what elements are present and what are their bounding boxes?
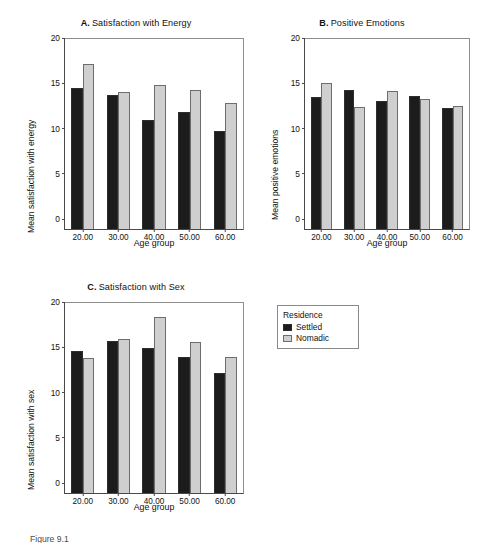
bar-b-nomadic-20.00 — [321, 83, 332, 229]
panel-b: B.Positive Emotions Mean positive emotio… — [262, 18, 480, 268]
legend-label-settled: Settled — [296, 322, 322, 332]
y-tick-label: 15 — [51, 78, 62, 88]
bar-b-nomadic-60.00 — [453, 106, 464, 229]
panel-c-y-axis-label: Mean satisfaction with sex — [26, 390, 36, 490]
y-tick-mark — [62, 437, 65, 438]
x-tick-b-30.00: 30.00 — [344, 229, 365, 242]
y-tick-b-0: 0 — [295, 214, 305, 224]
panel-c-title-text: Satisfaction with Sex — [97, 282, 185, 292]
bar-c-nomadic-60.00 — [225, 357, 237, 493]
x-tick-a-50.00: 50.00 — [179, 229, 200, 242]
bar-c-nomadic-30.00 — [118, 339, 130, 493]
bar-a-settled-20.00 — [71, 88, 83, 229]
y-tick-c-15: 15 — [51, 342, 65, 352]
x-tick-label: 40.00 — [144, 496, 165, 506]
x-tick-label: 30.00 — [344, 232, 365, 242]
x-tick-label: 30.00 — [108, 496, 129, 506]
legend-item-nomadic: Nomadic — [283, 333, 352, 343]
y-tick-a-0: 0 — [55, 214, 65, 224]
x-tick-label: 50.00 — [179, 232, 200, 242]
y-tick-mark — [302, 128, 305, 129]
y-tick-b-5: 5 — [295, 169, 305, 179]
legend-swatch-settled-icon — [283, 324, 292, 331]
x-tick-c-50.00: 50.00 — [179, 493, 200, 506]
bar-a-nomadic-30.00 — [118, 92, 130, 229]
figure-caption: Figure 9.1 — [30, 534, 69, 543]
x-tick-c-30.00: 30.00 — [108, 493, 129, 506]
legend: Residence Settled Nomadic — [277, 305, 359, 349]
bar-c-settled-50.00 — [178, 357, 190, 493]
legend-label-nomadic: Nomadic — [296, 333, 329, 343]
y-tick-mark — [62, 483, 65, 484]
x-tick-c-40.00: 40.00 — [144, 493, 165, 506]
panel-b-title-text: Positive Emotions — [329, 18, 405, 28]
x-tick-label: 50.00 — [410, 232, 431, 242]
y-tick-label: 0 — [55, 478, 62, 488]
y-tick-label: 0 — [55, 214, 62, 224]
panel-a: A.Satisfaction with Energy Mean satisfac… — [18, 18, 254, 268]
panel-b-letter: B. — [319, 18, 328, 28]
x-tick-c-60.00: 60.00 — [215, 493, 236, 506]
x-tick-c-20.00: 20.00 — [73, 493, 94, 506]
panel-a-y-axis-label: Mean satisfaction with energy — [26, 120, 36, 233]
panel-c: C.Satisfaction with Sex Mean satisfactio… — [18, 282, 254, 532]
bar-b-nomadic-50.00 — [420, 99, 431, 229]
y-tick-b-20: 20 — [291, 33, 305, 43]
panel-a-title: A.Satisfaction with Energy — [18, 18, 254, 28]
y-tick-mark — [62, 219, 65, 220]
y-tick-label: 0 — [295, 214, 302, 224]
y-tick-mark — [62, 302, 65, 303]
bar-b-settled-60.00 — [442, 108, 453, 229]
bar-a-settled-50.00 — [178, 112, 190, 229]
bar-c-settled-60.00 — [214, 373, 226, 493]
x-tick-a-60.00: 60.00 — [215, 229, 236, 242]
x-tick-b-20.00: 20.00 — [311, 229, 332, 242]
bar-b-settled-50.00 — [409, 96, 420, 229]
y-tick-c-0: 0 — [55, 478, 65, 488]
bar-b-nomadic-30.00 — [354, 107, 365, 229]
x-tick-b-50.00: 50.00 — [410, 229, 431, 242]
panel-a-plot-area: Age group 0510152020.0030.0040.0050.0060… — [64, 38, 244, 230]
bar-a-nomadic-20.00 — [83, 64, 95, 229]
y-tick-label: 15 — [291, 78, 302, 88]
x-tick-b-40.00: 40.00 — [377, 229, 398, 242]
x-tick-label: 20.00 — [73, 232, 94, 242]
y-tick-label: 15 — [51, 342, 62, 352]
y-tick-label: 20 — [291, 33, 302, 43]
y-tick-mark — [62, 128, 65, 129]
panel-c-plot-area: Age group 0510152020.0030.0040.0050.0060… — [64, 302, 244, 494]
y-tick-label: 5 — [55, 169, 62, 179]
bar-a-nomadic-40.00 — [154, 85, 166, 229]
panel-b-y-axis-label: Mean positive emotions — [270, 130, 280, 220]
panel-b-title: B.Positive Emotions — [262, 18, 462, 28]
y-tick-b-15: 15 — [291, 78, 305, 88]
y-tick-label: 10 — [51, 124, 62, 134]
panel-a-title-text: Satisfaction with Energy — [90, 18, 191, 28]
x-tick-a-40.00: 40.00 — [144, 229, 165, 242]
y-tick-c-5: 5 — [55, 433, 65, 443]
bar-c-nomadic-20.00 — [83, 358, 95, 493]
panel-b-plot-area: Age group 0510152020.0030.0040.0050.0060… — [304, 38, 470, 230]
x-tick-a-20.00: 20.00 — [73, 229, 94, 242]
panel-c-letter: C. — [87, 282, 96, 292]
bar-b-settled-20.00 — [311, 97, 322, 229]
y-tick-a-20: 20 — [51, 33, 65, 43]
x-tick-label: 40.00 — [144, 232, 165, 242]
bar-a-settled-60.00 — [214, 131, 226, 229]
y-tick-mark — [62, 392, 65, 393]
y-tick-c-20: 20 — [51, 297, 65, 307]
y-tick-a-15: 15 — [51, 78, 65, 88]
y-tick-label: 10 — [291, 124, 302, 134]
x-tick-label: 50.00 — [179, 496, 200, 506]
y-tick-mark — [62, 83, 65, 84]
bar-c-settled-20.00 — [71, 351, 83, 493]
legend-swatch-nomadic-icon — [283, 335, 292, 342]
y-tick-mark — [62, 347, 65, 348]
bar-c-nomadic-50.00 — [190, 342, 202, 493]
bar-b-settled-30.00 — [344, 90, 355, 229]
bar-a-settled-30.00 — [107, 95, 119, 229]
y-tick-b-10: 10 — [291, 124, 305, 134]
y-tick-label: 10 — [51, 388, 62, 398]
legend-item-settled: Settled — [283, 322, 352, 332]
